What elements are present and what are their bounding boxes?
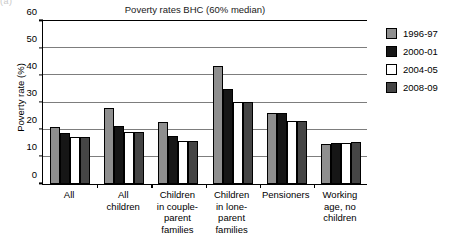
legend-label-1: 2000-01 — [403, 46, 438, 57]
y-tick-label-50: 50 — [26, 32, 37, 43]
bar-1-1[interactable] — [114, 126, 124, 184]
bar-5-1[interactable] — [331, 143, 341, 184]
legend-label-3: 2008-09 — [403, 82, 438, 93]
x-axis-label-line: age, no — [313, 201, 367, 213]
bar-0-1[interactable] — [60, 133, 70, 184]
bar-5-2[interactable] — [341, 143, 351, 184]
x-axis-label-line: Children — [150, 189, 204, 201]
y-tick-label-10: 10 — [26, 141, 37, 152]
legend-swatch-icon-1 — [386, 46, 397, 57]
x-axis-label-line: Pensioners — [259, 189, 313, 201]
plot-inner: 0102030405060 — [43, 21, 367, 184]
bar-1-3[interactable] — [134, 132, 144, 184]
bar-group-2 — [151, 21, 205, 184]
y-axis-title: Poverty rate (%) — [15, 38, 26, 158]
bar-5-0[interactable] — [321, 144, 331, 184]
x-axis-label-line: parent — [205, 212, 259, 224]
bar-4-0[interactable] — [267, 113, 277, 184]
legend-label-0: 1996-97 — [403, 28, 438, 39]
legend-item-3[interactable]: 2008-09 — [386, 78, 451, 96]
x-axis-label-line: Children — [205, 189, 259, 201]
bar-0-2[interactable] — [70, 137, 80, 184]
y-tick-label-0: 0 — [32, 168, 37, 179]
x-axis-label-line: in couple- — [150, 201, 204, 213]
x-axis-label-line: in lone- — [205, 201, 259, 213]
x-axis-label-line: Working — [313, 189, 367, 201]
bar-2-1[interactable] — [168, 136, 178, 184]
bar-1-0[interactable] — [104, 108, 114, 184]
x-axis-label-4: Pensioners — [259, 189, 313, 201]
x-axis-label-line: children — [313, 212, 367, 224]
bar-4-3[interactable] — [297, 121, 307, 184]
x-tick-mark-2 — [206, 184, 207, 188]
bar-group-3 — [206, 21, 260, 184]
y-tick-label-40: 40 — [26, 59, 37, 70]
bar-3-0[interactable] — [213, 66, 223, 184]
legend-item-0[interactable]: 1996-97 — [386, 24, 451, 42]
chart-title: Poverty rates BHC (60% median) — [0, 4, 390, 15]
x-axis-label-line: children — [96, 201, 150, 213]
x-axis-label-5: Workingage, nochildren — [313, 189, 367, 224]
bar-2-3[interactable] — [188, 141, 198, 184]
bar-4-2[interactable] — [287, 121, 297, 184]
bar-4-1[interactable] — [277, 113, 287, 184]
bar-group-0 — [43, 21, 97, 184]
x-axis-label-line: All — [42, 189, 96, 201]
bar-group-1 — [97, 21, 151, 184]
bar-0-0[interactable] — [50, 127, 60, 184]
bar-0-3[interactable] — [80, 137, 90, 184]
x-tick-mark-0 — [97, 184, 98, 188]
x-tick-mark-3 — [260, 184, 261, 188]
bar-2-0[interactable] — [158, 122, 168, 184]
y-tick-label-20: 20 — [26, 114, 37, 125]
legend-item-2[interactable]: 2004-05 — [386, 60, 451, 78]
bar-3-2[interactable] — [233, 102, 243, 184]
legend-swatch-icon-0 — [386, 28, 397, 39]
x-axis-label-2: Childrenin couple-parentfamilies — [150, 189, 204, 235]
x-axis-label-3: Childrenin lone-parentfamilies — [205, 189, 259, 235]
x-axis-label-line: families — [205, 224, 259, 236]
x-axis-label-0: All — [42, 189, 96, 201]
bar-1-2[interactable] — [124, 132, 134, 184]
chart-legend: 1996-972000-012004-052008-09 — [386, 24, 451, 96]
y-tick-label-30: 30 — [26, 87, 37, 98]
legend-label-2: 2004-05 — [403, 64, 438, 75]
bar-group-5 — [314, 21, 368, 184]
legend-item-1[interactable]: 2000-01 — [386, 42, 451, 60]
bar-5-3[interactable] — [351, 142, 361, 184]
bar-2-2[interactable] — [178, 141, 188, 184]
bar-group-4 — [260, 21, 314, 184]
x-axis-label-1: Allchildren — [96, 189, 150, 212]
plot-area: 0102030405060 — [42, 21, 367, 185]
legend-swatch-icon-2 — [386, 64, 397, 75]
bar-3-3[interactable] — [243, 102, 253, 184]
x-axis-labels: AllAllchildrenChildrenin couple-parentfa… — [42, 189, 367, 239]
bar-3-1[interactable] — [223, 89, 233, 184]
legend-swatch-icon-3 — [386, 82, 397, 93]
x-axis-label-line: parent — [150, 212, 204, 224]
x-tick-mark-1 — [151, 184, 152, 188]
x-tick-mark-4 — [314, 184, 315, 188]
x-axis-label-line: All — [96, 189, 150, 201]
y-tick-label-60: 60 — [26, 5, 37, 16]
x-axis-label-line: families — [150, 224, 204, 236]
